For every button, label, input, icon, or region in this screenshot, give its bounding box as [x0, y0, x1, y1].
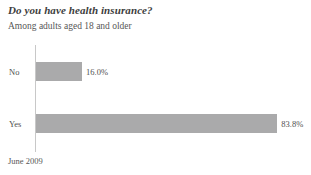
bar-yes — [36, 114, 277, 133]
bar-no — [36, 62, 82, 81]
value-label-yes: 83.8% — [281, 118, 303, 130]
bar-chart: Do you have health insurance? Among adul… — [0, 0, 311, 175]
bar-row: No 16.0% — [0, 62, 311, 82]
bar-row: Yes 83.8% — [0, 114, 311, 134]
plot-area: No 16.0% Yes 83.8% — [0, 0, 311, 175]
chart-footer-date: June 2009 — [8, 156, 43, 166]
category-label-yes: Yes — [9, 118, 21, 130]
value-label-no: 16.0% — [86, 66, 108, 78]
category-label-no: No — [9, 66, 19, 78]
